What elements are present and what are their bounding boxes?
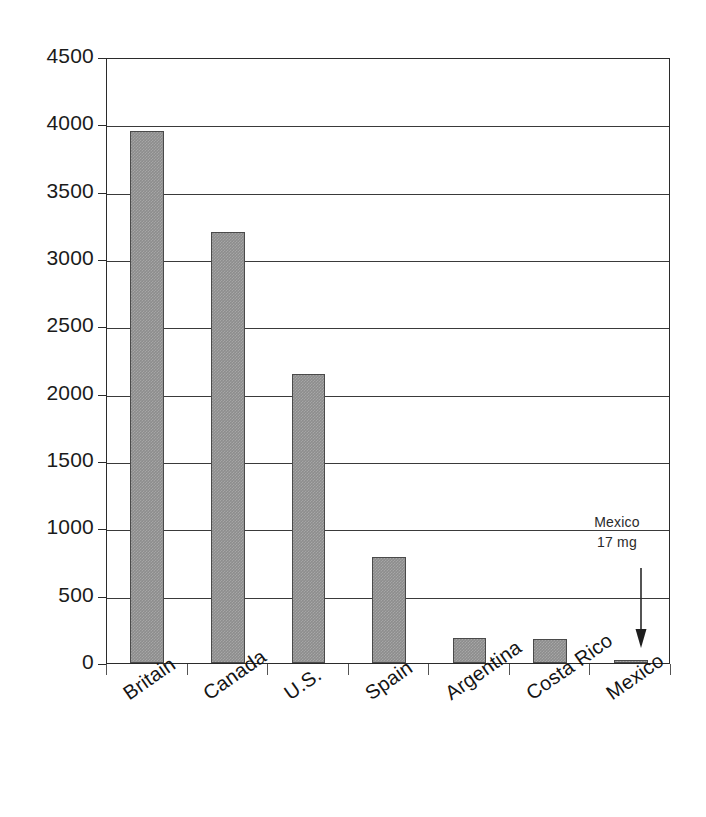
annotation-label: Mexico xyxy=(562,512,672,532)
bars-layer xyxy=(107,59,669,663)
x-tick-label-us: U.S. xyxy=(280,663,326,705)
bar-britain xyxy=(130,131,164,663)
bar-canada xyxy=(211,232,245,663)
down-arrow-icon xyxy=(634,568,648,650)
y-tick-label: 1500 xyxy=(0,448,94,472)
y-tick-label: 2000 xyxy=(0,381,94,405)
plot-area xyxy=(106,58,670,664)
y-tick-label: 500 xyxy=(0,583,94,607)
x-tick-label-spain: Spain xyxy=(361,656,417,705)
y-tick-label: 4000 xyxy=(0,111,94,135)
bar-spain xyxy=(372,557,406,663)
bar-u-s xyxy=(292,374,326,663)
mexico-annotation: Mexico 17 mg xyxy=(562,512,672,553)
x-axis-labels: Britain Canada U.S. Spain Argentina Cost… xyxy=(106,664,706,814)
annotation-value: 17 mg xyxy=(562,532,672,552)
bar-chart-figure: 4500 4000 3500 3000 2500 2000 1500 1000 … xyxy=(0,0,706,817)
y-tick-label: 0 xyxy=(0,650,94,674)
y-tick-label: 1000 xyxy=(0,515,94,539)
y-tick-label: 3000 xyxy=(0,246,94,270)
y-tick-label: 3500 xyxy=(0,179,94,203)
y-axis-labels: 4500 4000 3500 3000 2500 2000 1500 1000 … xyxy=(0,0,94,817)
y-tick-label: 2500 xyxy=(0,313,94,337)
y-tick-label: 4500 xyxy=(0,44,94,68)
